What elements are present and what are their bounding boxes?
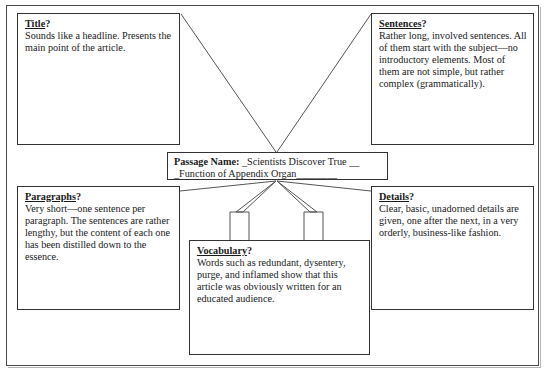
box-details-heading: Details bbox=[379, 191, 409, 202]
box-sentences-heading: Sentences bbox=[379, 18, 421, 29]
passage-name-value-line-1: _Scientists Discover True __ bbox=[242, 156, 359, 167]
box-paragraphs: Paragraphs? Very short—one sentence per … bbox=[17, 186, 180, 310]
box-vocabulary-question-mark: ? bbox=[247, 245, 252, 256]
box-vocabulary-body: Words such as redundant, dysentery, purg… bbox=[197, 257, 363, 305]
box-sentences: Sentences? Rather long, involved sentenc… bbox=[371, 13, 534, 145]
box-passage-name: Passage Name: _Scientists Discover True … bbox=[167, 152, 388, 180]
box-details-question-mark: ? bbox=[409, 191, 414, 202]
box-sentences-question-mark: ? bbox=[421, 18, 426, 29]
box-title-question-mark: ? bbox=[45, 18, 50, 29]
box-title-heading: Title bbox=[25, 18, 45, 29]
box-paragraphs-heading: Paragraphs bbox=[25, 191, 76, 202]
passage-name-value-line-2: _Function of Appendix Organ________ bbox=[174, 168, 337, 179]
box-details-body: Clear, basic, unadorned details are give… bbox=[379, 203, 527, 239]
box-sentences-body: Rather long, involved sentences. All of … bbox=[379, 30, 527, 90]
box-vocabulary: Vocabulary? Words such as redundant, dys… bbox=[189, 240, 370, 355]
box-title-body: Sounds like a headline. Presents the mai… bbox=[25, 30, 173, 54]
box-title: Title? Sounds like a headline. Presents … bbox=[17, 13, 180, 145]
worksheet-page: Title? Sounds like a headline. Presents … bbox=[0, 0, 546, 374]
box-paragraphs-body: Very short—one sentence per paragraph. T… bbox=[25, 203, 173, 263]
box-details: Details? Clear, basic, unadorned details… bbox=[371, 186, 534, 310]
passage-name-label: Passage Name: bbox=[174, 156, 239, 167]
box-paragraphs-question-mark: ? bbox=[76, 191, 81, 202]
box-vocabulary-heading: Vocabulary bbox=[197, 245, 247, 256]
